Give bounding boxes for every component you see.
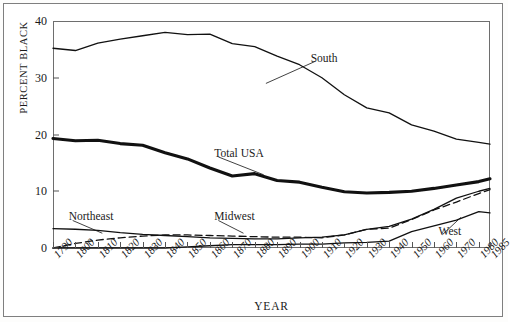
x-tick-mark: [412, 242, 413, 248]
x-tick-mark: [479, 242, 480, 248]
y-tick-label: 30: [35, 72, 47, 84]
y-tick-mark: [53, 77, 59, 78]
y-tick-label: 10: [35, 185, 47, 197]
y-axis-label: PERCENT BLACK: [18, 3, 29, 133]
series-label-midwest: Midwest: [214, 210, 254, 222]
x-tick-mark: [255, 242, 256, 248]
x-axis-label: YEAR: [53, 300, 490, 312]
x-tick-mark: [367, 242, 368, 248]
series-label-south: South: [311, 52, 338, 64]
x-tick-mark: [300, 242, 301, 248]
y-tick-mark: [53, 191, 59, 192]
series-line-total-usa: [53, 138, 490, 192]
y-tick-label: 40: [35, 15, 47, 27]
y-tick-mark: [53, 134, 59, 135]
plot-area: 010203040 179018001810182018301840185018…: [53, 21, 490, 248]
y-tick-label: 20: [35, 129, 47, 141]
series-label-total-usa: Total USA: [214, 147, 263, 159]
leader-line-south: [266, 62, 315, 84]
x-tick-mark: [143, 242, 144, 248]
series-line-south: [53, 32, 490, 144]
series-label-west: West: [438, 225, 461, 237]
series-layer: [53, 21, 490, 248]
series-label-northeast: Northeast: [69, 210, 114, 222]
y-tick-label: 0: [41, 242, 47, 254]
